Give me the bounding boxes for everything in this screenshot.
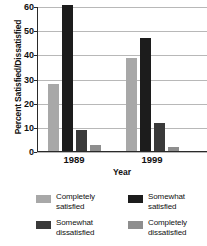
y-tick-label: 50 bbox=[24, 26, 34, 36]
bar bbox=[140, 38, 151, 152]
y-axis-tick-labels: 0102030405060 bbox=[16, 7, 34, 152]
x-tick-label: 1999 bbox=[141, 154, 162, 165]
legend-swatch bbox=[36, 195, 51, 203]
legend-label: Completelysatisfied bbox=[56, 192, 95, 211]
bar bbox=[126, 58, 137, 152]
bar-chart-figure: Percent Satisfied/Dissatisfied 010203040… bbox=[0, 0, 207, 246]
legend-item[interactable]: Somewhatsatisfied bbox=[128, 192, 185, 211]
y-tick-label: 10 bbox=[24, 123, 34, 133]
legend-swatch bbox=[36, 221, 51, 229]
legend-item[interactable]: Completelydissatisfied bbox=[128, 218, 187, 237]
chart-legend: CompletelysatisfiedSomewhatsatisfiedSome… bbox=[36, 192, 207, 242]
plot-area bbox=[37, 7, 207, 152]
legend-label: Somewhatdissatisfied bbox=[56, 218, 94, 237]
x-tick-label: 1989 bbox=[63, 154, 84, 165]
y-tick-label: 40 bbox=[24, 50, 34, 60]
legend-swatch bbox=[128, 195, 143, 203]
y-tick-label: 20 bbox=[24, 99, 34, 109]
bar-series-container bbox=[37, 7, 207, 152]
legend-item[interactable]: Somewhatdissatisfied bbox=[36, 218, 94, 237]
x-axis-tick-labels: 19891999 bbox=[37, 154, 207, 167]
bar-group-1999 bbox=[37, 7, 207, 152]
y-tick-label: 30 bbox=[24, 75, 34, 85]
legend-item[interactable]: Completelysatisfied bbox=[36, 192, 95, 211]
legend-label: Completelydissatisfied bbox=[148, 218, 187, 237]
y-tick-label: 60 bbox=[24, 2, 34, 12]
legend-swatch bbox=[128, 221, 143, 229]
bar bbox=[154, 123, 165, 152]
x-axis-title: Year bbox=[37, 167, 207, 177]
y-tickmark bbox=[34, 152, 37, 153]
legend-label: Somewhatsatisfied bbox=[148, 192, 185, 211]
gridline bbox=[37, 152, 207, 153]
x-axis-line bbox=[37, 151, 207, 153]
